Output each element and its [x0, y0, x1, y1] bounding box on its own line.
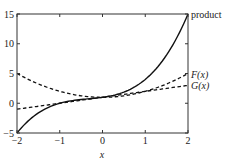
plot-frame	[17, 14, 188, 133]
x-tick-label: 1	[143, 135, 148, 146]
x-tick-label: 2	[186, 135, 191, 146]
y-tick-label: 0	[9, 98, 14, 109]
axes: −2−1012−5051015	[3, 9, 190, 147]
labels: productF(x)G(x)	[190, 9, 222, 92]
series-product-line	[17, 14, 188, 133]
plot-area	[17, 14, 188, 133]
series-gx-line	[17, 85, 188, 109]
y-tick-label: −5	[3, 128, 14, 139]
y-tick-label: 5	[9, 68, 14, 79]
label-F: F(x)	[190, 69, 209, 81]
x-tick-label: 0	[100, 135, 105, 146]
label-G: G(x)	[191, 80, 210, 92]
series-fx-line	[17, 74, 188, 98]
y-tick-label: 10	[4, 38, 14, 49]
chart: −2−1012−5051015 productF(x)G(x) x	[0, 0, 227, 162]
y-tick-label: 15	[4, 9, 14, 20]
x-tick-label: −1	[54, 135, 65, 146]
x-axis-label: x	[99, 149, 105, 160]
label-product: product	[191, 9, 222, 20]
